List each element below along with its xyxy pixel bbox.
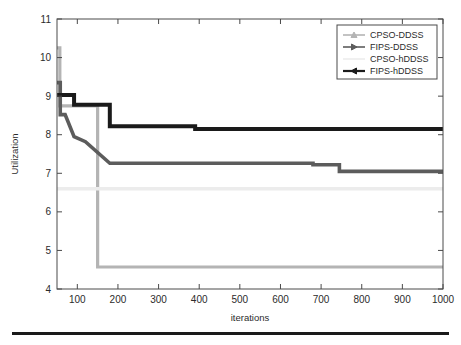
x-tick-label: 1000	[432, 294, 455, 305]
y-axis-label: Utilization	[9, 133, 20, 174]
y-tick-label: 4	[45, 284, 51, 295]
y-tick-label: 6	[45, 206, 51, 217]
series-line-fips-hddss	[57, 95, 443, 129]
x-tick-label: 200	[110, 294, 127, 305]
x-axis-label: iterations	[231, 312, 270, 323]
x-tick-label: 100	[69, 294, 86, 305]
legend-label-fips-ddss: FIPS-DDSS	[370, 42, 418, 52]
x-tick-label: 600	[272, 294, 289, 305]
y-tick-label: 9	[45, 91, 51, 102]
series-line-cpso-ddss	[57, 48, 443, 267]
x-tick-label: 300	[150, 294, 167, 305]
legend-label-cpso-ddss: CPSO-DDSS	[370, 30, 424, 40]
y-tick-label: 10	[40, 52, 52, 63]
x-tick-label: 400	[191, 294, 208, 305]
x-tick-label: 700	[313, 294, 330, 305]
x-tick-label: 500	[231, 294, 248, 305]
y-tick-label: 11	[41, 14, 52, 25]
utilization-line-chart: 1002003004005006007008009001000456789101…	[0, 0, 461, 345]
bottom-horizontal-rule	[12, 332, 449, 335]
legend-label-cpso-hddss: CPSO-hDDSS	[370, 54, 429, 64]
x-tick-label: 800	[353, 294, 370, 305]
chart-legend: CPSO-DDSSFIPS-DDSSCPSO-hDDSSFIPS-hDDSS	[337, 25, 437, 79]
series-group	[57, 48, 443, 267]
x-tick-label: 900	[394, 294, 411, 305]
legend-label-fips-hddss: FIPS-hDDSS	[370, 66, 423, 76]
chart-figure: 1002003004005006007008009001000456789101…	[0, 0, 461, 345]
y-tick-label: 7	[45, 168, 51, 179]
y-tick-label: 8	[45, 129, 51, 140]
y-tick-label: 5	[45, 245, 51, 256]
